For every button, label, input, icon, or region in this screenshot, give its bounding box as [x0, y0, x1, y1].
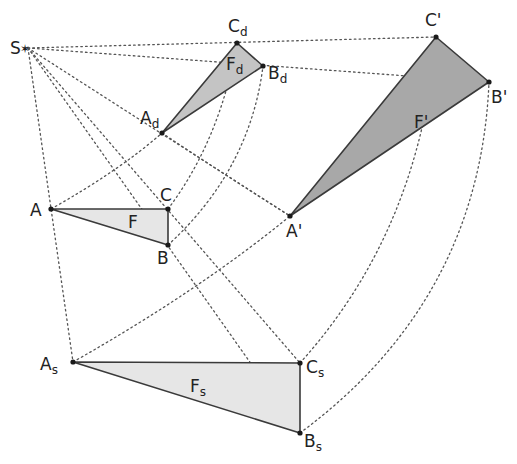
arc-a-ad [51, 133, 162, 209]
point-label-as: As [40, 354, 58, 377]
point-as [70, 359, 75, 364]
point-label-bp: B' [491, 87, 507, 107]
point-label-b: B [157, 248, 169, 268]
point-label-cp: C' [425, 10, 442, 30]
point-ap [287, 213, 292, 218]
ray-s-c-s [28, 48, 300, 363]
point-label-ad: Ad [140, 108, 159, 131]
point-label-c: C [160, 185, 172, 205]
point-cp [433, 34, 438, 39]
ray-s-c-prime [28, 37, 436, 48]
point-label-ap: A' [286, 221, 302, 241]
triangles [51, 37, 489, 433]
triangle-label-fp: F' [414, 112, 428, 132]
triangle-fd [162, 43, 263, 133]
point-label-a: A [30, 200, 42, 220]
point-label-bs: Bs [304, 431, 322, 454]
point-label-cs: Cs [306, 357, 324, 380]
triangle-fp [290, 37, 489, 216]
point-cs [297, 360, 302, 365]
arc-as-ap [73, 216, 290, 362]
point-b [165, 242, 170, 247]
triangle-f [51, 209, 168, 245]
center-s-label: S [10, 38, 21, 58]
point-cd [234, 40, 239, 45]
point-bp [486, 79, 491, 84]
point-bs [297, 430, 302, 435]
line-ad-ap [162, 133, 290, 216]
projection-diagram: ✶ FABCFdAdBdCdF'A'B'C'FsAsBsCsS [0, 0, 517, 464]
point-label-bd: Bd [268, 63, 287, 86]
triangle-label-f: F [128, 212, 138, 232]
point-ad [159, 130, 164, 135]
triangle-fs [73, 362, 300, 433]
point-a [48, 206, 53, 211]
point-label-cd: Cd [228, 16, 248, 39]
point-c [165, 206, 170, 211]
point-bd [260, 63, 265, 68]
center-s-icon: ✶ [20, 42, 30, 56]
